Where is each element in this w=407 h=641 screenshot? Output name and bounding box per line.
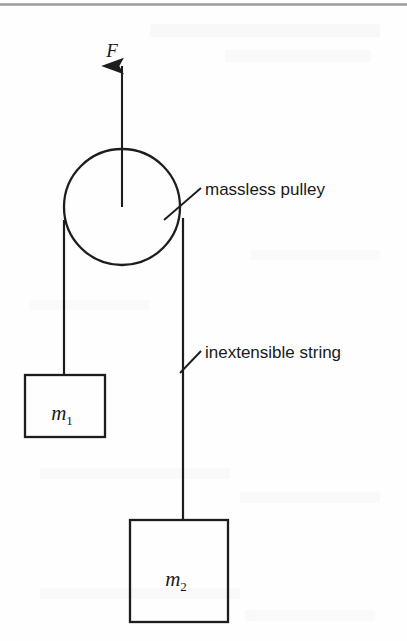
block-m2-label: m2	[165, 567, 187, 594]
force-label: F	[105, 40, 118, 61]
string-annotation: inextensible string	[205, 343, 341, 362]
bleed-through-layer	[30, 24, 380, 621]
pulley-annotation: massless pulley	[205, 180, 325, 199]
block-m1-label: m1	[51, 401, 73, 428]
pulley-leader-line	[164, 188, 201, 220]
figure-page: F m1 m2 massless pulley inextensible str…	[0, 0, 407, 641]
pulley-diagram: F m1 m2 massless pulley inextensible str…	[0, 0, 407, 641]
